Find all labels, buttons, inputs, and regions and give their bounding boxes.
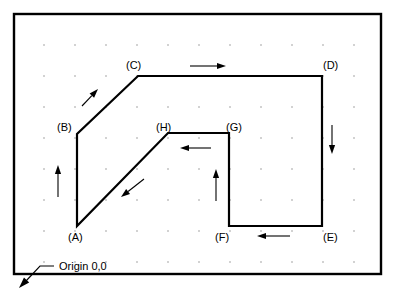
vertex-label-c: (C): [126, 59, 141, 71]
grid-dot: [260, 261, 262, 263]
vertex-label-g: (G): [226, 121, 242, 133]
grid-dot: [136, 106, 138, 108]
grid-dot: [136, 230, 138, 232]
grid-dot: [260, 137, 262, 139]
grid-dot: [136, 168, 138, 170]
grid-dot: [105, 44, 107, 46]
grid-dot: [353, 44, 355, 46]
grid-dot: [291, 106, 293, 108]
toolpath-outline: [77, 76, 322, 226]
grid-dot: [260, 230, 262, 232]
grid-dot: [353, 137, 355, 139]
grid-dot: [198, 199, 200, 201]
grid-dot: [105, 199, 107, 201]
arrow-segment-ef-left-head: [257, 233, 266, 239]
vertex-label-d: (D): [323, 59, 338, 71]
grid-dot: [229, 44, 231, 46]
origin-callout-text: Origin 0,0: [59, 260, 107, 272]
grid-dot: [229, 230, 231, 232]
grid-dot: [353, 168, 355, 170]
grid-dot: [229, 106, 231, 108]
grid-dot: [167, 261, 169, 263]
arrow-segment-gh-left-head: [180, 145, 189, 151]
technical-drawing-canvas: (A)(B)(C)(D)(E)(F)(G)(H) Origin 0,0: [0, 0, 395, 298]
grid-dot: [260, 106, 262, 108]
grid-dot: [167, 199, 169, 201]
grid-dot: [74, 106, 76, 108]
grid-dot: [105, 230, 107, 232]
grid-dot: [43, 199, 45, 201]
arrow-segment-de-down-head: [329, 145, 335, 154]
grid-dot: [43, 168, 45, 170]
grid-dot: [74, 75, 76, 77]
arrow-segment-ab-up-head: [55, 165, 61, 174]
grid-dot: [229, 261, 231, 263]
vertex-label-h: (H): [156, 121, 171, 133]
grid-dot: [198, 44, 200, 46]
grid-dot: [74, 168, 76, 170]
grid-dot: [260, 168, 262, 170]
grid-dot: [198, 261, 200, 263]
arrow-segment-fg-up-head: [213, 169, 219, 178]
grid-dot: [353, 261, 355, 263]
grid-dot: [43, 261, 45, 263]
grid-dot: [198, 168, 200, 170]
grid-dot: [198, 106, 200, 108]
grid-dot: [322, 261, 324, 263]
grid-dot: [105, 168, 107, 170]
arrow-segment-cd-right-head: [217, 63, 226, 69]
grid-dot: [136, 261, 138, 263]
grid-dot: [291, 230, 293, 232]
arrow-segment-ha-down-left-head: [121, 189, 130, 197]
vertex-label-a: (A): [68, 231, 83, 243]
grid-dot: [291, 44, 293, 46]
grid-dot: [136, 137, 138, 139]
grid-dot: [43, 137, 45, 139]
grid-dot: [167, 168, 169, 170]
grid-dot: [353, 75, 355, 77]
grid-dot: [322, 44, 324, 46]
vertex-label-b: (B): [57, 121, 72, 133]
grid-dot: [353, 230, 355, 232]
grid-dot: [167, 44, 169, 46]
grid-dot: [353, 106, 355, 108]
grid-dot: [291, 168, 293, 170]
vertex-label-f: (F): [215, 231, 229, 243]
grid-dot: [291, 261, 293, 263]
grid-dot: [105, 137, 107, 139]
arrow-segment-bc-up-right-shaft: [82, 96, 92, 106]
grid-dot: [198, 230, 200, 232]
grid-dot: [260, 199, 262, 201]
grid-dot: [136, 199, 138, 201]
grid-dot: [136, 44, 138, 46]
grid-dot: [43, 75, 45, 77]
grid-dot: [198, 137, 200, 139]
grid-dot: [74, 137, 76, 139]
grid-dot: [43, 230, 45, 232]
diagram-svg: (A)(B)(C)(D)(E)(F)(G)(H) Origin 0,0: [0, 0, 395, 298]
grid-dot: [353, 199, 355, 201]
grid-dot: [291, 199, 293, 201]
grid-dot: [167, 230, 169, 232]
grid-dot: [105, 75, 107, 77]
grid-dot: [167, 106, 169, 108]
grid-dot: [43, 106, 45, 108]
grid-dot: [167, 137, 169, 139]
grid-dot: [43, 44, 45, 46]
grid-dot: [260, 44, 262, 46]
vertex-label-e: (E): [323, 231, 338, 243]
grid-dot: [74, 44, 76, 46]
direction-arrow-group: [55, 63, 335, 239]
vertex-label-group: (A)(B)(C)(D)(E)(F)(G)(H): [57, 59, 338, 243]
grid-dot: [291, 137, 293, 139]
arrow-segment-ha-down-left-shaft: [128, 179, 144, 191]
grid-dot: [74, 199, 76, 201]
